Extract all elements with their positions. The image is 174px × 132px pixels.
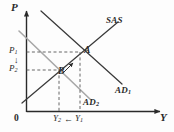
- y2-tick-label: Y2: [53, 114, 61, 123]
- ad-sas-diagram: P Y 0 P1 ↓ P2 Y2 ← Y1 A B SAS AD1 AD2: [0, 0, 174, 132]
- origin-label: 0: [14, 114, 19, 124]
- point-a-label: A: [84, 46, 90, 56]
- ad2-base: AD: [83, 97, 96, 107]
- ad2-sub: 2: [96, 101, 99, 107]
- p2-sub: 2: [15, 67, 18, 73]
- ad2-curve-label: AD2: [83, 98, 99, 107]
- sas-curve-label: SAS: [106, 16, 123, 25]
- y1-sub: 1: [80, 117, 83, 123]
- p-axis-label: P: [11, 2, 18, 13]
- y-axis-label: Y: [160, 112, 167, 123]
- y1-tick-label: Y1: [75, 114, 83, 123]
- sas-curve: [22, 22, 118, 103]
- p2-tick-label: P2: [9, 64, 18, 73]
- diagram-canvas: [0, 0, 174, 132]
- point-b-label: B: [58, 67, 64, 77]
- output-decrease-arrow: ←: [64, 115, 73, 124]
- ad1-curve-label: AD1: [115, 86, 131, 95]
- ad1-base: AD: [115, 85, 128, 95]
- y2-sub: 2: [58, 117, 61, 123]
- ad1-sub: 1: [128, 89, 131, 95]
